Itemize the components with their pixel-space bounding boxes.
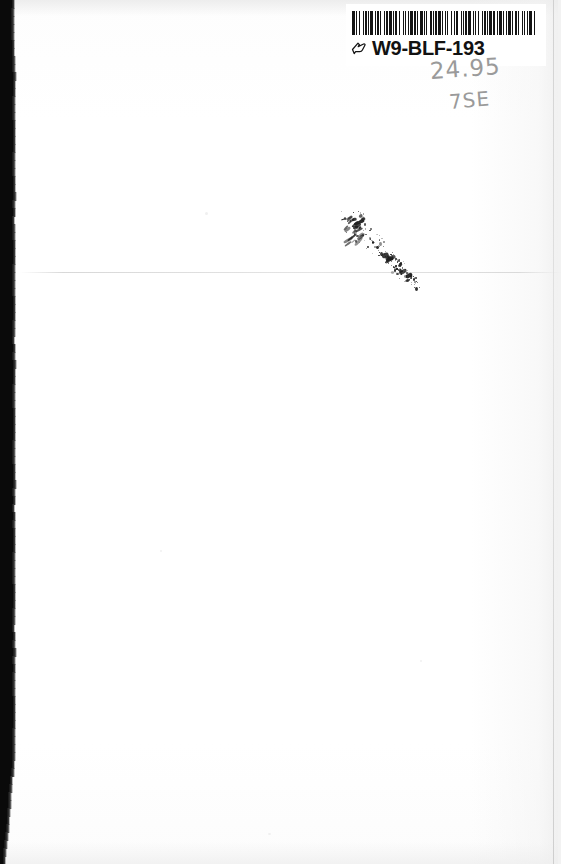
barcode-graphic [352,11,536,35]
left-scan-gutter-shadow [0,0,18,864]
ink-smudge-mark [338,203,430,295]
page-body-text [30,120,530,820]
pointing-hand-icon [350,38,370,62]
handwritten-price: 24.95 [429,53,502,84]
scan-speck [268,833,271,835]
right-page-trim-edge [553,0,554,864]
scan-speck [160,550,162,552]
handwritten-code: 7SE [448,86,491,113]
scan-speck [205,212,208,215]
scanned-page: W9-BLF-193 24.95 7SE [0,0,561,864]
horizontal-fold-crease [20,272,561,273]
scan-speck [420,660,422,662]
